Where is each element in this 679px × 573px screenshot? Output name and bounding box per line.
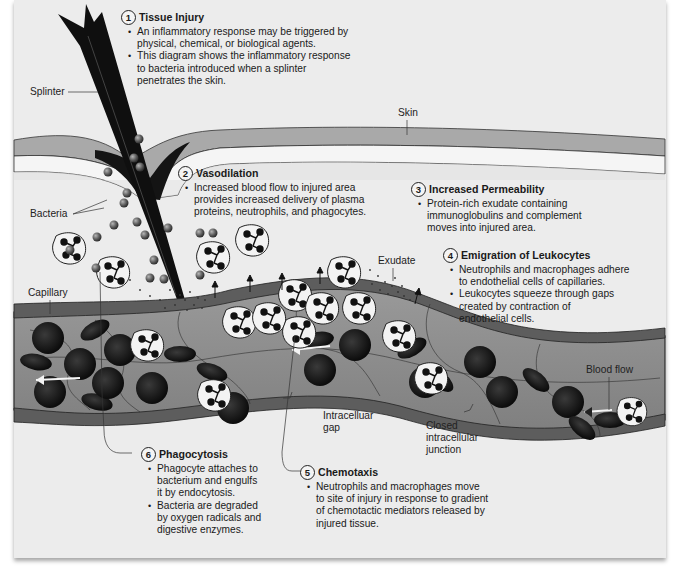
step-title: Increased Permeability (429, 183, 544, 196)
step-title: Tissue Injury (139, 11, 204, 24)
step-title: Phagocytosis (159, 448, 228, 461)
label-closed-intracellular-junction: Closed intracellular junction (426, 420, 478, 456)
label-splinter: Splinter (30, 86, 65, 98)
step-bullet: Phagocyte attaches to bacterium and engu… (141, 463, 261, 500)
step-number-badge: 3 (411, 182, 426, 197)
step-number-badge: 1 (121, 10, 136, 25)
step-2-vasodilation: 2 Vasodilation Increased blood flow to i… (178, 166, 366, 219)
label-blood-flow: Blood flow (586, 364, 633, 376)
step-bullet: Neutrophils and macrophages adhere to en… (443, 264, 629, 288)
step-bullet: An inflammatory response may be triggere… (121, 26, 350, 50)
label-exudate: Exudate (378, 255, 415, 267)
step-bullet: Leukocytes squeeze through gaps created … (443, 288, 629, 325)
step-6-phagocytosis: 6 Phagocytosis Phagocyte attaches to bac… (141, 447, 261, 536)
step-number-badge: 2 (178, 166, 193, 181)
step-title: Emigration of Leukocytes (461, 249, 591, 262)
step-bullet: Protein-rich exudate containing immunogl… (411, 198, 582, 235)
inflammation-diagram: 1 Tissue Injury An inflammatory response… (0, 0, 679, 573)
step-bullet: This diagram shows the inflammatory resp… (121, 50, 350, 87)
step-bullet: Neutrophils and macrophages move to site… (300, 481, 488, 530)
step-number-badge: 5 (300, 465, 315, 480)
label-skin: Skin (398, 107, 418, 119)
step-title: Chemotaxis (318, 466, 378, 479)
label-bacteria: Bacteria (30, 208, 67, 220)
step-4-emigration-of-leukocytes: 4 Emigration of Leukocytes Neutrophils a… (443, 248, 629, 325)
step-number-badge: 6 (141, 447, 156, 462)
step-bullet: Bacteria are degraded by oxygen radicals… (141, 500, 261, 537)
step-number-badge: 4 (443, 248, 458, 263)
step-5-chemotaxis: 5 Chemotaxis Neutrophils and macrophages… (300, 465, 488, 530)
step-title: Vasodilation (196, 167, 258, 180)
label-intracellular-gap: Intracelluar gap (323, 410, 373, 434)
step-bullet: Increased blood flow to injured area pro… (178, 182, 366, 219)
step-1-tissue-injury: 1 Tissue Injury An inflammatory response… (121, 10, 350, 87)
step-3-increased-permeability: 3 Increased Permeability Protein-rich ex… (411, 182, 582, 235)
label-capillary: Capillary (28, 287, 68, 299)
